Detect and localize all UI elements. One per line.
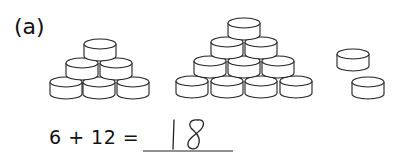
loose-cylinders bbox=[337, 49, 384, 99]
pyramid-small bbox=[50, 39, 149, 99]
handwritten-answer-18 bbox=[168, 116, 210, 152]
pyramid-large bbox=[176, 18, 312, 98]
equation: 6 + 12 = bbox=[49, 126, 139, 148]
